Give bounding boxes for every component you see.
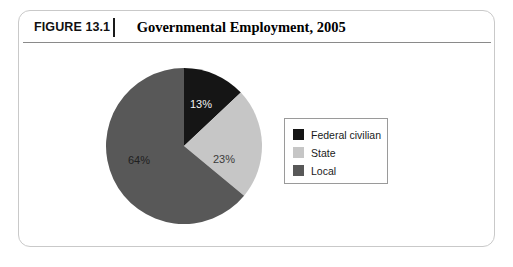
legend-swatch-federal-civilian xyxy=(293,129,304,140)
legend-label-federal-civilian: Federal civilian xyxy=(311,129,381,141)
legend-item-federal-civilian: Federal civilian xyxy=(293,126,387,143)
chart-legend: Federal civilian State Local xyxy=(284,118,388,184)
header-divider xyxy=(113,18,115,37)
pie-chart-svg xyxy=(106,68,262,224)
figure-header: FIGURE 13.1 Governmental Employment, 200… xyxy=(19,11,496,43)
pie-chart xyxy=(106,68,262,224)
figure-title: Governmental Employment, 2005 xyxy=(137,19,346,36)
legend-item-state: State xyxy=(293,144,387,161)
chart-plot-area: 13% 23% 64% Federal civilian State Local xyxy=(19,43,496,247)
legend-swatch-local xyxy=(293,165,304,176)
legend-label-local: Local xyxy=(311,165,336,177)
legend-swatch-state xyxy=(293,147,304,158)
figure-number: FIGURE 13.1 xyxy=(34,20,110,34)
figure-frame: FIGURE 13.1 Governmental Employment, 200… xyxy=(18,10,495,247)
legend-label-state: State xyxy=(311,147,336,159)
legend-item-local: Local xyxy=(293,162,387,179)
